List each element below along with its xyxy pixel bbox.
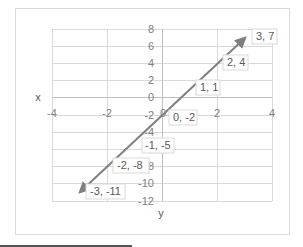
svg-text:-4: -4 <box>47 107 57 119</box>
scatter-chart: 8 6 4 2 0 -2 -4 -6 -8 -10 -12 -4 -2 0 2 … <box>0 0 303 247</box>
svg-text:-1, -5: -1, -5 <box>145 139 171 151</box>
data-label: -1, -5 <box>142 138 174 153</box>
svg-text:4: 4 <box>148 57 154 69</box>
svg-text:1, 1: 1, 1 <box>200 81 218 93</box>
svg-text:-3, -11: -3, -11 <box>90 185 121 197</box>
svg-text:6: 6 <box>148 40 154 52</box>
svg-text:0: 0 <box>148 91 154 103</box>
svg-text:3, 7: 3, 7 <box>256 30 274 42</box>
svg-text:-2, -8: -2, -8 <box>117 159 143 171</box>
svg-text:2: 2 <box>214 107 220 119</box>
y-axis-title: x <box>35 91 41 103</box>
svg-text:0, -2: 0, -2 <box>173 111 195 123</box>
svg-text:2: 2 <box>148 74 154 86</box>
svg-text:2, 4: 2, 4 <box>227 56 245 68</box>
data-label: 2, 4 <box>223 55 248 70</box>
svg-text:-12: -12 <box>138 195 154 207</box>
svg-text:-2: -2 <box>102 107 112 119</box>
data-label: 3, 7 <box>252 29 277 44</box>
svg-text:-2: -2 <box>144 109 154 121</box>
svg-text:8: 8 <box>148 23 154 35</box>
svg-text:4: 4 <box>269 107 275 119</box>
data-label: -2, -8 <box>113 158 149 173</box>
data-labels: -3, -11 -2, -8 -1, -5 0, -2 1, 1 2, 4 3,… <box>86 29 277 199</box>
x-axis-title: y <box>158 207 164 219</box>
data-label: 1, 1 <box>196 80 220 95</box>
svg-text:-10: -10 <box>138 177 154 189</box>
data-label: -3, -11 <box>86 184 125 199</box>
data-label: 0, -2 <box>169 110 197 125</box>
